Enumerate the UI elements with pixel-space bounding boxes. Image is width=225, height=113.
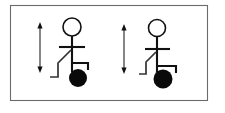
arrow-head-down-right — [121, 68, 126, 75]
head-icon-right — [149, 20, 166, 37]
head-icon-left — [63, 18, 81, 36]
diagram-canvas — [0, 0, 225, 113]
figure-right — [121, 20, 176, 89]
arrow-head-up-left — [37, 22, 42, 29]
ball-right — [154, 70, 173, 89]
back-leg-right — [139, 52, 156, 74]
arrow-head-down-left — [37, 67, 42, 74]
arrow-head-up-right — [121, 24, 126, 31]
vertical-double-arrow-left — [37, 22, 42, 73]
figure-left — [37, 18, 88, 87]
vertical-double-arrow-right — [121, 24, 126, 74]
back-leg-left — [50, 50, 71, 77]
stick-figure-diagram — [0, 0, 225, 113]
front-arm-left — [72, 63, 88, 70]
ball-left — [69, 69, 87, 87]
